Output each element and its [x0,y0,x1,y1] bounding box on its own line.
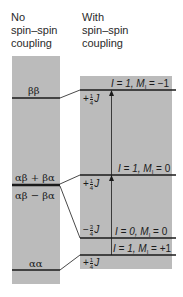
fraction: 14 [90,257,93,270]
shift-label-plus-quarter-j: +14J [83,257,99,270]
state-i: I = 1, [113,243,138,254]
shift-label-plus-quarter-j: +14J [83,178,99,191]
state-m: M [136,78,144,89]
denominator: 4 [90,231,93,237]
shift-symbol: J [94,93,99,104]
shift-sign: + [83,93,89,104]
state-label-i0-m0: I = 0, MI = 0 [115,226,167,241]
state-label-i1-m0: I = 1, MI = 0 [118,163,170,178]
shift-sign: − [83,224,89,235]
state-val: = 0 [153,163,170,174]
fraction: 34 [90,224,93,237]
level-label-beta-beta: ββ [28,85,40,96]
state-m: M [140,226,148,237]
level-label-alpha-alpha: αα [29,258,43,269]
denominator: 4 [90,185,93,191]
level-label-ab-plus-ba: αβ + βα [15,172,55,183]
numerator: 1 [90,257,93,264]
state-i: I = 1, [118,163,143,174]
numerator: 1 [90,178,93,185]
shift-symbol: J [94,178,99,189]
state-i: I = 0, [115,226,140,237]
state-label-i1-m-plus1: I = 1, MI = +1 [113,243,171,258]
state-val: = −1 [146,78,169,89]
fraction: 14 [90,93,93,106]
shift-sign: + [83,178,89,189]
shift-symbol: J [94,257,99,268]
fraction: 14 [90,178,93,191]
state-val: = 0 [150,226,167,237]
shift-symbol: J [94,224,99,235]
state-m: M [143,163,151,174]
shift-label-minus-three-quarter-j: −34J [83,224,99,237]
shift-label-plus-quarter-j: +14J [83,93,99,106]
state-label-i1-m-minus1: I = 1, MI = −1 [111,78,169,93]
state-m: M [138,243,146,254]
denominator: 4 [90,100,93,106]
shift-sign: + [83,257,89,268]
state-val: = +1 [148,243,171,254]
state-i: I = 1, [111,78,136,89]
numerator: 3 [90,224,93,231]
level-label-ab-minus-ba: αβ − βα [15,190,55,201]
denominator: 4 [90,264,93,270]
numerator: 1 [90,93,93,100]
